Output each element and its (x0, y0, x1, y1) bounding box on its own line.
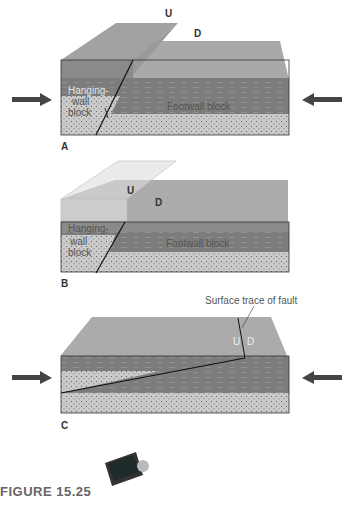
svg-text:U: U (233, 336, 240, 347)
svg-text:Footwall block: Footwall block (166, 238, 230, 249)
compression-arrow-left-icon (302, 93, 342, 106)
svg-text:D: D (194, 28, 201, 39)
svg-text:Surface trace of fault: Surface trace of fault (205, 295, 297, 306)
fault-diagram: U D Hanging- wall block Footwall block A… (0, 0, 356, 506)
panel-c: Surface trace of fault U D C (12, 295, 342, 431)
svg-text:wall: wall (71, 96, 89, 107)
svg-text:Footwall block: Footwall block (167, 101, 231, 112)
svg-text:Hanging-: Hanging- (68, 85, 109, 96)
tablet-icon[interactable] (105, 452, 149, 486)
svg-text:A: A (61, 141, 68, 152)
svg-text:block: block (68, 107, 92, 118)
svg-text:block: block (68, 247, 92, 258)
svg-text:wall: wall (69, 236, 87, 247)
svg-text:U: U (165, 8, 172, 19)
svg-text:C: C (61, 420, 68, 431)
compression-arrow-left-icon (302, 371, 342, 384)
svg-text:U: U (127, 185, 134, 196)
svg-text:B: B (61, 278, 68, 289)
svg-text:Hanging-: Hanging- (68, 223, 109, 234)
compression-arrow-right-icon (12, 371, 52, 384)
svg-text:D: D (155, 197, 162, 208)
svg-text:D: D (247, 336, 254, 347)
panel-b: U D Hanging- wall block Footwall block B (61, 161, 289, 289)
figure-caption: FIGURE 15.25 (0, 484, 91, 499)
compression-arrow-right-icon (12, 93, 52, 106)
panel-a: U D Hanging- wall block Footwall block A (12, 8, 342, 152)
